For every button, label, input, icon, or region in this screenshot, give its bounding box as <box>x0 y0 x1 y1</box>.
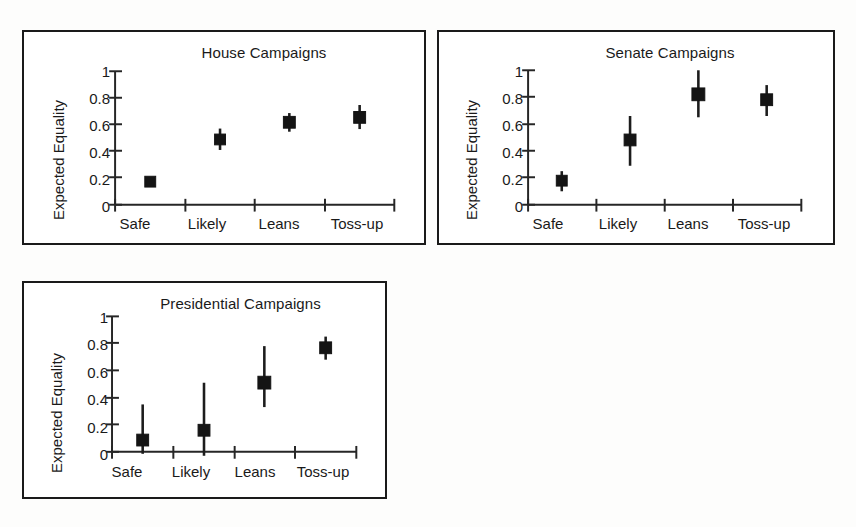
data-point-likely <box>198 383 210 456</box>
plot-area-house <box>24 32 424 243</box>
data-point-leans <box>258 346 271 407</box>
plot-area-senate <box>439 32 833 243</box>
panel-senate-campaigns: Senate Campaigns Expected Equality 1 0.8… <box>437 30 835 245</box>
data-point-tossup <box>761 85 773 116</box>
plot-area-presidential <box>24 283 385 497</box>
data-point-leans <box>692 70 705 117</box>
data-point-tossup <box>354 105 366 129</box>
panel-presidential-campaigns: Presidential Campaigns Expected Equality… <box>22 281 387 499</box>
data-point-likely <box>215 129 226 150</box>
data-point-likely <box>624 116 636 166</box>
data-point-tossup <box>320 337 332 360</box>
panel-house-campaigns: House Campaigns Expected Equality 1 0.8 … <box>22 30 426 245</box>
data-point-leans <box>283 113 295 132</box>
data-point-safe <box>556 171 567 191</box>
figure-panel-grid: House Campaigns Expected Equality 1 0.8 … <box>0 0 856 527</box>
data-point-safe <box>137 404 149 453</box>
data-point-safe <box>145 176 156 187</box>
